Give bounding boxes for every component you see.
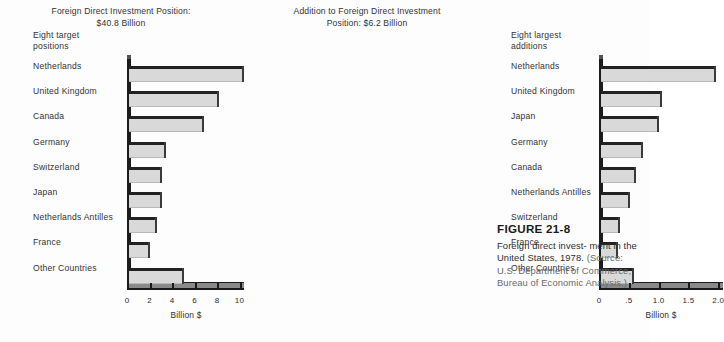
bar bbox=[129, 94, 219, 107]
x-axis-tick-label: 1.0 bbox=[653, 296, 665, 305]
bar bbox=[129, 220, 157, 233]
chart-title-addition: Addition to Foreign Direct Investment Po… bbox=[251, 6, 483, 29]
category-label: United Kingdom bbox=[33, 86, 97, 97]
x-axis-tick bbox=[718, 283, 720, 290]
x-axis-label-left: Billion $ bbox=[127, 310, 245, 320]
figure-caption-text: Foreign direct invest- ment in the Unite… bbox=[497, 240, 643, 290]
x-axis-tick-label: 6 bbox=[192, 296, 197, 305]
x-axis-tick bbox=[240, 283, 242, 290]
bar bbox=[129, 119, 204, 132]
figure-number: FIGURE 21-8 bbox=[497, 222, 643, 235]
chart-title-position: Foreign Direct Investment Position: $40.… bbox=[6, 6, 236, 29]
x-axis-tick bbox=[195, 283, 197, 290]
category-label: Netherlands bbox=[33, 61, 82, 72]
x-axis-tick bbox=[127, 283, 129, 290]
bar bbox=[129, 271, 184, 284]
bar bbox=[129, 245, 150, 258]
category-label: Japan bbox=[33, 187, 57, 198]
category-label: Canada bbox=[511, 162, 542, 173]
category-label: Other Countries bbox=[33, 263, 97, 274]
bar bbox=[601, 145, 643, 158]
x-axis-label-right: Billion $ bbox=[599, 310, 723, 320]
category-label: Netherlands Antilles bbox=[33, 212, 113, 223]
bar bbox=[601, 195, 630, 208]
bar bbox=[601, 69, 716, 82]
x-axis-tick bbox=[659, 283, 661, 290]
x-axis-tick bbox=[688, 283, 690, 290]
plot-area-position: 0246810 bbox=[127, 58, 247, 290]
x-axis-tick bbox=[150, 283, 152, 290]
category-label: Switzerland bbox=[33, 162, 80, 173]
x-axis-tick bbox=[217, 283, 219, 290]
category-group-heading: Eight target positions bbox=[33, 30, 79, 52]
x-axis-tick-label: 1.5 bbox=[683, 296, 695, 305]
x-axis-tick-label: .5 bbox=[625, 296, 632, 305]
category-label: Germany bbox=[33, 137, 70, 148]
category-label: United Kingdom bbox=[511, 86, 575, 97]
x-axis-tick-label: 8 bbox=[215, 296, 220, 305]
x-axis-tick-label: 2 bbox=[147, 296, 152, 305]
bar bbox=[129, 145, 166, 158]
category-label: Netherlands Antilles bbox=[511, 187, 591, 198]
chart-panel-position: Foreign Direct Investment Position: $40.… bbox=[0, 0, 250, 342]
x-axis-tick-label: 2.0 bbox=[712, 296, 724, 305]
category-label: France bbox=[33, 237, 61, 248]
category-label: Netherlands bbox=[511, 61, 560, 72]
bar bbox=[129, 195, 162, 208]
chart-panel-addition: Addition to Foreign Direct Investment Po… bbox=[243, 0, 493, 342]
figure-caption-block: FIGURE 21-8 Foreign direct invest- ment … bbox=[497, 222, 643, 290]
x-axis-tick-label: 0 bbox=[597, 296, 602, 305]
x-axis-tick-label: 0 bbox=[125, 296, 130, 305]
category-label: Germany bbox=[511, 137, 548, 148]
bar bbox=[601, 119, 659, 132]
x-axis-tick bbox=[172, 283, 174, 290]
bar bbox=[129, 69, 244, 82]
x-axis-tick-label: 4 bbox=[170, 296, 175, 305]
category-label: Japan bbox=[511, 111, 535, 122]
bar bbox=[129, 170, 162, 183]
category-group-heading: Eight largest additions bbox=[511, 30, 561, 52]
bar bbox=[601, 170, 636, 183]
bar bbox=[601, 94, 662, 107]
category-label: Canada bbox=[33, 111, 64, 122]
